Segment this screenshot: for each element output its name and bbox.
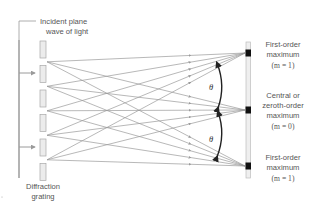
svg-text:grating: grating: [31, 192, 54, 201]
grating-slit: [40, 115, 46, 132]
svg-text:Central or: Central or: [266, 91, 300, 100]
angle-arc-lower: [217, 112, 222, 157]
maximum-label-central: Central or zeroth-order maximum (m = 0): [262, 91, 304, 131]
maximum-label-first-order-bottom: First-order maximum (m = 1): [265, 153, 300, 183]
incident-wave-label: Incident plane wave of light: [19, 17, 89, 41]
grating-slit: [40, 90, 46, 107]
svg-text:zeroth-order: zeroth-order: [262, 101, 304, 110]
diffracted-ray: [47, 160, 245, 166]
theta-label-lower: θ: [209, 134, 213, 144]
svg-text:Diffraction: Diffraction: [26, 182, 60, 191]
grating-slit: [40, 139, 46, 156]
grating-slit: [40, 41, 46, 58]
diffracted-ray: [47, 111, 245, 166]
incident-label-line1: Incident plane: [40, 17, 87, 26]
grating-slit: [40, 66, 46, 83]
diffracted-ray: [47, 110, 245, 111]
incident-leader-line: [19, 21, 36, 40]
maximum-label-first-order-top: First-order maximum (m = 1): [265, 40, 300, 70]
diffraction-grating-diagram: Incident plane wave of light θ θ First-o…: [0, 0, 315, 206]
order-label: (m = 1): [272, 61, 295, 70]
maximum-marker-central: [246, 107, 252, 114]
diffraction-grating: [40, 41, 46, 181]
order-label: (m = 0): [272, 122, 295, 131]
diffracted-ray: [47, 110, 245, 160]
stray-mark: [2, 197, 3, 198]
angle-arc-upper: [217, 63, 222, 108]
svg-text:maximum: maximum: [267, 50, 300, 59]
grating-label: Diffraction grating: [26, 182, 60, 201]
diffracted-rays: [47, 53, 245, 166]
svg-text:maximum: maximum: [267, 111, 300, 120]
incident-label-line2: wave of light: [45, 27, 89, 36]
diffracted-ray: [47, 53, 245, 86]
grating-slit: [40, 164, 46, 181]
maximum-marker-first-order-bottom: [246, 163, 252, 170]
diffracted-ray: [47, 53, 245, 62]
maximum-marker-first-order-top: [246, 50, 252, 57]
svg-text:maximum: maximum: [267, 163, 300, 172]
diffracted-ray: [47, 53, 245, 111]
theta-label-upper: θ: [209, 82, 213, 92]
svg-text:First-order: First-order: [265, 153, 300, 162]
order-label: (m = 1): [272, 174, 295, 183]
svg-text:First-order: First-order: [265, 40, 300, 49]
